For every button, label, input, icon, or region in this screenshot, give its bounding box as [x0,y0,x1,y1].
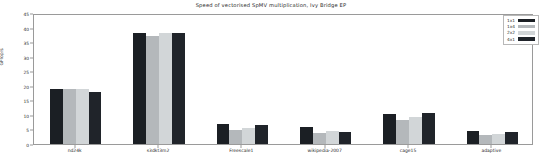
x-tick-label: nd24k [68,148,82,154]
legend-swatch [518,25,535,28]
bar [313,133,326,144]
y-tick-label: 40 [23,26,29,31]
y-tick-label: 15 [23,99,29,104]
bar [422,113,435,144]
bar [242,128,255,144]
bar [146,36,159,144]
legend-label: 2x2 [507,30,515,35]
bar [63,89,76,144]
bar [467,131,480,144]
x-tick-label: cage15 [400,148,417,154]
y-tick-label: 20 [23,84,29,89]
bar [505,132,518,144]
bar-group [50,15,102,144]
bar [396,120,409,144]
bar [409,117,422,144]
x-tick-label: s3dkt3m2 [147,148,170,154]
bar [383,114,396,144]
y-tick-label: 5 [26,128,29,133]
y-tick-label: 25 [23,70,29,75]
y-tick-label: 10 [23,113,29,118]
x-tick-label: adaptive [481,148,501,154]
bar [229,130,242,144]
y-axis-ticks: 051015202530354045 [0,14,33,145]
y-tick-label: 45 [23,12,29,17]
bar [172,33,185,144]
chart-title: Speed of vectorised SpMV multiplication,… [0,2,542,9]
bar [300,127,313,144]
bar-group [217,15,269,144]
bar [76,89,89,144]
bar-group [133,15,185,144]
legend-label: 4x1 [507,37,515,42]
bar [133,33,146,144]
bar [217,124,230,144]
y-tick-label: 30 [23,55,29,60]
bar-group [300,15,352,144]
legend-swatch [518,19,535,22]
legend-label: 1x1 [507,18,515,23]
chart-legend: 1x11x42x24x1 [503,15,539,45]
bar-group [383,15,435,144]
bar [159,33,172,144]
x-tick-label: Freescale1 [229,148,253,154]
x-tick-label: wikipedia-2007 [307,148,341,154]
y-tick-label: 0 [26,143,29,148]
bar [492,134,505,144]
bar [479,135,492,144]
legend-item: 1x4 [507,24,535,29]
chart-container: Speed of vectorised SpMV multiplication,… [0,0,542,161]
plot-area [33,14,533,145]
legend-swatch [518,31,535,34]
legend-item: 2x2 [507,30,535,35]
legend-item: 4x1 [507,37,535,42]
y-tick-label: 35 [23,41,29,46]
bar [89,92,102,144]
bar [326,131,339,144]
bar [255,125,268,144]
legend-label: 1x4 [507,24,515,29]
legend-item: 1x1 [507,18,535,23]
bar [50,89,63,144]
x-axis-ticks: nd24ks3dkt3m2Freescale1wikipedia-2007cag… [33,145,533,161]
bar [339,132,352,144]
legend-swatch [518,37,535,40]
